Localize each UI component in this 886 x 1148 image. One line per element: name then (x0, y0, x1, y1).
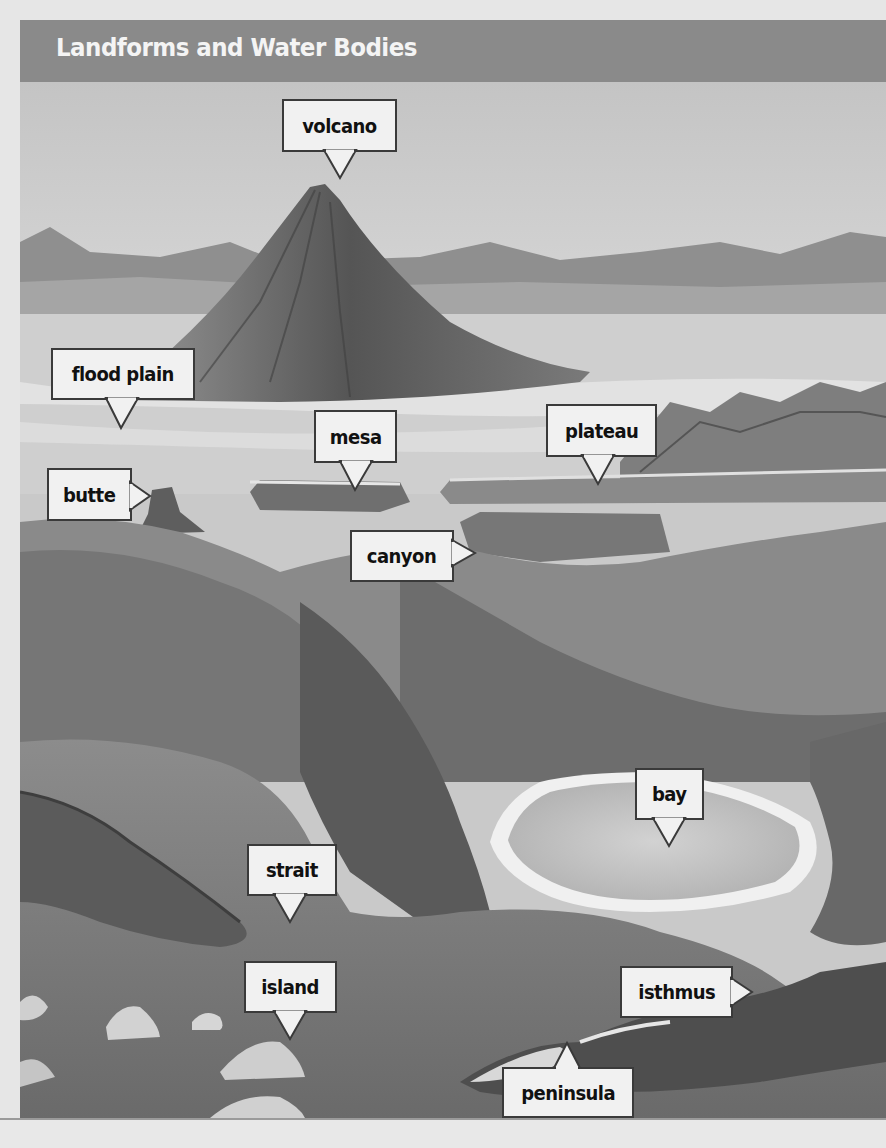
label-isthmus: isthmus (620, 966, 733, 1018)
label-text: bay (652, 782, 687, 806)
label-text: flood plain (72, 362, 174, 386)
pointer-bay (651, 818, 687, 848)
pointer-volcano (322, 150, 358, 180)
title-bar: Landforms and Water Bodies (20, 20, 886, 82)
label-text: volcano (302, 114, 376, 138)
pointer-mesa (338, 461, 374, 492)
pointer-island (272, 1011, 308, 1041)
label-text: strait (266, 858, 318, 882)
label-mesa: mesa (314, 410, 397, 463)
label-volcano: volcano (282, 99, 397, 152)
label-butte: butte (47, 468, 132, 521)
label-text: butte (63, 483, 115, 507)
pointer-butte (130, 480, 152, 514)
label-text: mesa (330, 425, 382, 449)
pointer-canyon (452, 538, 478, 572)
pointer-peninsula (552, 1041, 584, 1069)
pointer-plateau (580, 455, 616, 486)
label-strait: strait (247, 844, 337, 896)
label-island: island (244, 961, 337, 1013)
landforms-illustration (20, 82, 886, 1118)
label-flood-plain: flood plain (51, 348, 195, 400)
label-plateau: plateau (546, 404, 657, 457)
label-text: peninsula (521, 1081, 615, 1105)
label-text: island (262, 975, 320, 999)
page-bottom-margin (0, 1118, 886, 1148)
label-text: canyon (367, 544, 436, 568)
label-canyon: canyon (350, 530, 454, 582)
pointer-flood-plain (104, 398, 140, 430)
label-text: isthmus (638, 980, 715, 1004)
label-text: plateau (565, 419, 638, 443)
label-peninsula: peninsula (502, 1067, 634, 1118)
pointer-strait (272, 894, 308, 924)
page-title: Landforms and Water Bodies (56, 33, 417, 62)
label-bay: bay (635, 768, 704, 820)
pointer-isthmus (731, 976, 755, 1010)
landscape-drawing (20, 82, 886, 1118)
